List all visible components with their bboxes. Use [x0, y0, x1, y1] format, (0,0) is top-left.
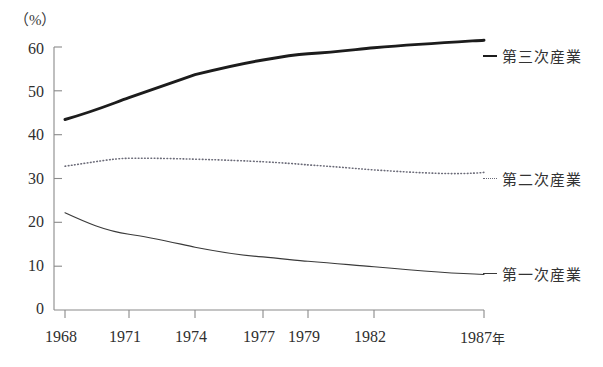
legend-item-primary: 第一次産業 [483, 263, 582, 284]
legend-item-secondary: 第二次産業 [483, 168, 582, 189]
legend-line-tertiary-icon [483, 55, 497, 57]
series-line-tertiary [65, 40, 484, 119]
legend-item-tertiary: 第三次産業 [483, 45, 582, 66]
series-line-secondary [65, 158, 484, 173]
series-line-primary [65, 213, 484, 275]
y-axis-ticks [54, 47, 62, 266]
x-axis-ticks [65, 310, 484, 318]
legend-label-secondary: 第二次産業 [502, 168, 582, 189]
chart-page: （%） 60 50 40 30 20 10 0 1968 1971 1974 1… [0, 0, 603, 367]
legend-line-primary-icon [483, 273, 497, 274]
legend-line-secondary-icon [483, 178, 497, 179]
legend-label-tertiary: 第三次産業 [502, 45, 582, 66]
legend-label-primary: 第一次産業 [502, 263, 582, 284]
